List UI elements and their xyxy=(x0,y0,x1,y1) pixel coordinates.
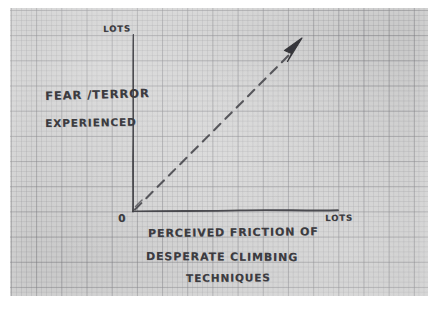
x-axis-line xyxy=(133,210,338,211)
screenshot-root: LOTS LOTS 0 FEAR /TERROR EXPERIENCED PER… xyxy=(0,0,437,314)
x-axis-title-line-2: DESPERATE CLIMBING xyxy=(146,250,298,264)
hand-drawn-chart-ink xyxy=(0,0,437,314)
x-axis-max-label: LOTS xyxy=(325,213,353,223)
y-axis-title-line-2: EXPERIENCED xyxy=(45,116,137,129)
x-axis-title-line-1: PERCEIVED FRICTION OF xyxy=(148,225,319,240)
x-axis-title-line-3: TECHNIQUES xyxy=(186,271,271,284)
y-axis-max-label: LOTS xyxy=(103,23,131,34)
origin-label: 0 xyxy=(118,212,127,224)
y-axis-title-line-1: FEAR /TERROR xyxy=(45,86,150,103)
trend-line-dashed xyxy=(135,55,289,210)
